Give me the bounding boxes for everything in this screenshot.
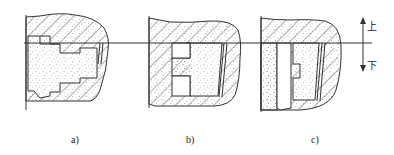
panel-a-label: a)	[71, 134, 79, 145]
panel-b	[149, 16, 241, 108]
direction-arrows	[360, 17, 366, 72]
casting-diagram	[0, 0, 394, 155]
panel-a	[26, 14, 109, 110]
arrow-down-icon	[360, 65, 366, 72]
down-label: 下	[367, 57, 377, 72]
arrow-up-icon	[360, 17, 366, 24]
up-label: 上	[367, 18, 377, 33]
panel-c-label: c)	[311, 134, 319, 145]
panel-b-label: b)	[186, 134, 194, 145]
panel-c	[261, 16, 341, 112]
